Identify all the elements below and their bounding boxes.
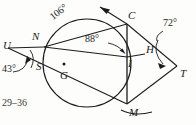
- point-label-t: T: [180, 68, 186, 79]
- secant-un-segment: [8, 47, 44, 48]
- point-label-m: M: [129, 107, 138, 118]
- point-label-s: S: [36, 61, 42, 72]
- leader-43-arrowhead: [25, 56, 31, 64]
- secant-mt: [127, 66, 177, 104]
- point-label-h: H: [146, 44, 154, 55]
- circle-geometry-figure: U N S C G I H T M 106° 88° 43° 72° 29–36: [0, 0, 196, 125]
- chord-sm: [40, 63, 127, 104]
- chord-ni: [44, 47, 127, 57]
- exercise-range-caption: 29–36: [2, 98, 27, 108]
- angle-label-88: 88°: [85, 34, 99, 44]
- leader-72-arrowhead: [158, 63, 166, 69]
- center-dot-g: [63, 63, 66, 66]
- point-label-n: N: [32, 31, 39, 42]
- angle-label-72: 72°: [163, 18, 177, 28]
- point-label-i: I: [128, 58, 132, 69]
- leader-72: [157, 31, 163, 41]
- point-label-u: U: [3, 40, 11, 51]
- angle-label-43: 43°: [2, 64, 16, 74]
- point-label-g: G: [60, 70, 68, 81]
- angle-arc-t: [156, 40, 163, 64]
- leader-88-arrowhead: [120, 49, 126, 55]
- point-label-c: C: [128, 10, 135, 21]
